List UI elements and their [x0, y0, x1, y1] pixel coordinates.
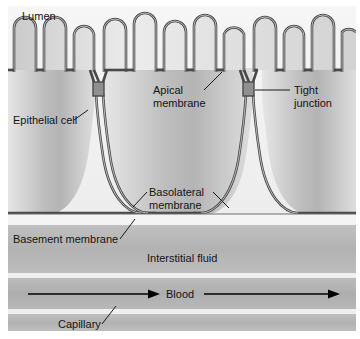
- label-apical-membrane-line1: Apical: [153, 84, 183, 96]
- label-tight-junction-line2: junction: [293, 97, 332, 109]
- epithelial-transport-diagram: Lumen Epithelial cell Apical membrane Ti…: [8, 6, 356, 331]
- label-tight-junction-line1: Tight: [294, 84, 318, 96]
- label-epithelial-cell: Epithelial cell: [13, 114, 77, 126]
- figure-canvas: Lumen Epithelial cell Apical membrane Ti…: [0, 0, 360, 339]
- label-basolateral-membrane-line1: Basolateral: [149, 186, 204, 198]
- diagram-svg: Lumen Epithelial cell Apical membrane Ti…: [8, 6, 356, 331]
- basement-membrane-band: [8, 214, 356, 225]
- label-apical-membrane-line2: membrane: [153, 97, 206, 109]
- label-basement-membrane: Basement membrane: [13, 233, 118, 245]
- label-lumen: Lumen: [22, 10, 56, 22]
- label-basolateral-membrane-line2: membrane: [149, 199, 202, 211]
- tight-junction-left: [93, 82, 104, 96]
- tight-junction-right: [243, 82, 254, 96]
- capillary-lumen-gap: [8, 309, 356, 314]
- label-capillary: Capillary: [58, 318, 101, 330]
- label-interstitial-fluid: Interstitial fluid: [147, 252, 217, 264]
- interstitial-capillary-gap: [8, 273, 356, 278]
- label-blood: Blood: [166, 288, 194, 300]
